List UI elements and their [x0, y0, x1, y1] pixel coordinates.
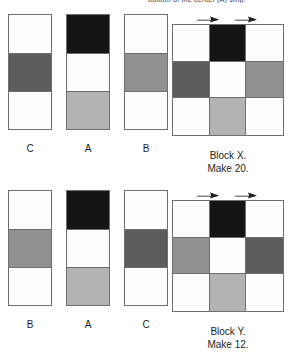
strip-cell — [125, 15, 167, 53]
block-cell — [210, 238, 247, 275]
strip-cell — [125, 229, 167, 267]
fabric-strip — [8, 190, 52, 306]
block-cell — [210, 25, 247, 62]
strip-unit: C — [124, 190, 168, 332]
block-cell — [173, 201, 210, 238]
block-cell — [173, 98, 210, 135]
block-cell — [173, 238, 210, 275]
strip-cell — [9, 53, 51, 91]
arrow-right-icon — [197, 191, 219, 199]
fabric-strip — [66, 190, 110, 306]
strip-cell — [67, 53, 109, 91]
arrow-right-icon — [197, 15, 219, 23]
block-caption-quantity: Make 20. — [172, 162, 284, 175]
block-caption-name: Block Y. — [172, 325, 284, 338]
strip-unit: B — [8, 190, 52, 332]
section-block-x: C A B — [0, 0, 291, 176]
block-caption-name: Block X. — [172, 149, 284, 162]
strip-label: B — [124, 142, 168, 156]
block-grid — [172, 24, 284, 136]
block-cell — [246, 62, 283, 99]
block-cell — [173, 62, 210, 99]
strip-unit: A — [66, 190, 110, 332]
strip-cell — [67, 229, 109, 267]
block-cell — [246, 274, 283, 311]
block-grid — [172, 200, 284, 312]
strip-cell — [9, 267, 51, 305]
strip-cell — [67, 267, 109, 305]
block-cell — [210, 62, 247, 99]
fabric-strip — [66, 14, 110, 130]
strip-label: A — [66, 318, 110, 332]
block-caption: Block Y. Make 12. — [172, 325, 284, 351]
strip-cell — [9, 229, 51, 267]
block-caption: Block X. Make 20. — [172, 149, 284, 175]
block-cell — [246, 25, 283, 62]
strip-cell — [125, 267, 167, 305]
seam-arrow-row — [172, 14, 284, 24]
block-caption-quantity: Make 12. — [172, 338, 284, 351]
block-cell — [210, 274, 247, 311]
fabric-strip — [8, 14, 52, 130]
strip-cell — [67, 191, 109, 229]
strip-label: C — [124, 318, 168, 332]
strip-cell — [125, 91, 167, 129]
block-cell — [246, 201, 283, 238]
assembled-block-block-x: Block X. Make 20. — [172, 14, 284, 175]
strip-unit: C — [8, 14, 52, 156]
block-cell — [246, 98, 283, 135]
block-cell — [173, 274, 210, 311]
block-cell — [173, 25, 210, 62]
strip-cell — [9, 91, 51, 129]
strip-label: C — [8, 142, 52, 156]
strip-unit: B — [124, 14, 168, 156]
strip-cell — [125, 191, 167, 229]
strip-cell — [125, 53, 167, 91]
strip-cell — [67, 15, 109, 53]
quilt-block-instruction-page: bottom of the center (A) strip. C A — [0, 0, 291, 352]
fabric-strip — [124, 14, 168, 130]
strip-set-block-y: B A C — [8, 190, 168, 332]
assembled-block-block-y: Block Y. Make 12. — [172, 190, 284, 351]
arrow-right-icon — [235, 191, 257, 199]
strip-cell — [9, 191, 51, 229]
strip-label: B — [8, 318, 52, 332]
strip-cell — [67, 91, 109, 129]
fabric-strip — [124, 190, 168, 306]
strip-cell — [9, 15, 51, 53]
strip-unit: A — [66, 14, 110, 156]
strip-label: A — [66, 142, 110, 156]
block-cell — [246, 238, 283, 275]
block-cell — [210, 201, 247, 238]
strip-set-block-x: C A B — [8, 14, 168, 156]
seam-arrow-row — [172, 190, 284, 200]
section-block-y: B A C — [0, 176, 291, 352]
arrow-right-icon — [235, 15, 257, 23]
block-cell — [210, 98, 247, 135]
